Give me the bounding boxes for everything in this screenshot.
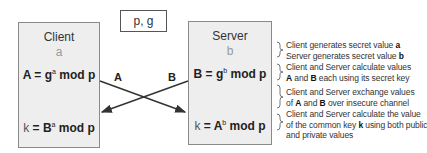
label-b: B xyxy=(168,71,176,83)
note-brackets xyxy=(277,42,283,130)
arrow-b-to-client xyxy=(102,81,188,112)
note-calculate-public: Client and Server calculate values A and… xyxy=(286,62,411,83)
note-secret-values: Client generates secret value a Server g… xyxy=(286,40,404,61)
label-a: A xyxy=(114,71,122,83)
note-common-key: Client and Server calculate the value of… xyxy=(286,109,427,141)
arrow-a-to-server xyxy=(100,81,185,112)
note-exchange: Client and Server exchange values of A a… xyxy=(286,87,415,108)
